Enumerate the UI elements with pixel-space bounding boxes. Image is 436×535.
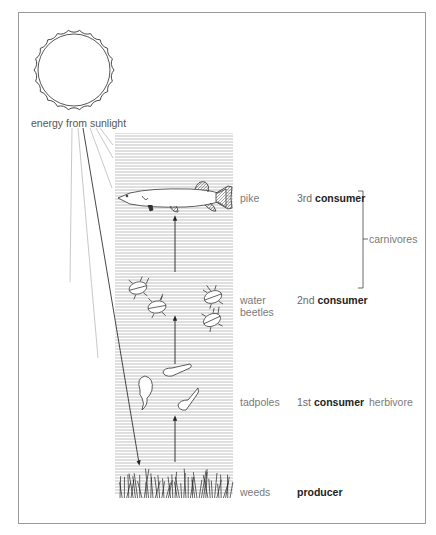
organism-label-weeds: weeds (240, 486, 270, 498)
role: consumer (317, 294, 367, 306)
role: producer (297, 486, 343, 498)
group-label-carnivores: carnivores (369, 233, 417, 245)
carnivores-bracket (358, 191, 368, 288)
ordinal: 2nd (297, 294, 315, 306)
trophic-level-producer: producer (297, 486, 343, 498)
ordinal: 1st (297, 396, 311, 408)
sunlight-rays (70, 128, 113, 358)
organism-label-water-beetles-line1: water (240, 294, 266, 306)
group-label-herbivore: herbivore (369, 396, 413, 408)
organism-label-tadpoles: tadpoles (240, 396, 280, 408)
role: consumer (315, 192, 365, 204)
organism-label-water-beetles-line2: beetles (240, 306, 274, 318)
role: consumer (314, 396, 364, 408)
organism-label-pike: pike (240, 192, 259, 204)
food-chain-artwork (0, 0, 436, 535)
trophic-level-2nd-consumer: 2nd consumer (297, 294, 368, 306)
ordinal: 3rd (297, 192, 312, 204)
sun-icon (34, 30, 114, 109)
trophic-level-1st-consumer: 1st consumer (297, 396, 364, 408)
energy-source-label: energy from sunlight (31, 117, 126, 129)
trophic-level-3rd-consumer: 3rd consumer (297, 192, 365, 204)
